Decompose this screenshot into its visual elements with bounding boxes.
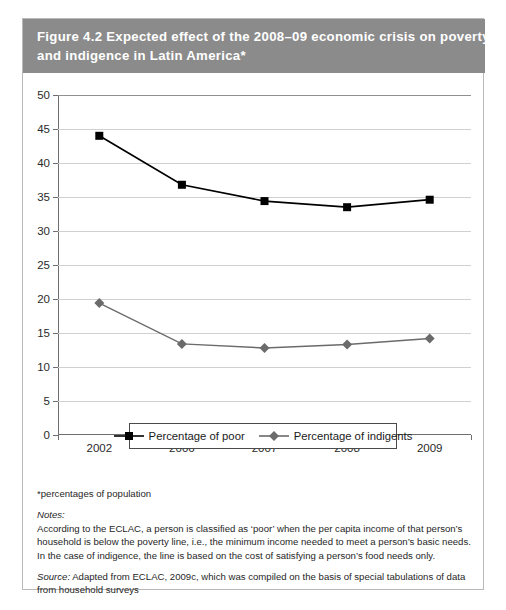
figure-title-line-1: Figure 4.2 Expected effect of the 2008–0… xyxy=(37,28,471,47)
plot-area: 05101520253035404550 2002200620072008200… xyxy=(58,95,471,435)
series-line xyxy=(99,136,429,207)
y-tick-label-20: 20 xyxy=(37,293,50,305)
figure-title-line-2: and indigence in Latin America* xyxy=(37,47,471,66)
figure-notes: *percentages of population Notes: Accord… xyxy=(37,487,471,605)
data-point-2007 xyxy=(260,343,270,353)
note-line-3: In the case of indigence, the line is ba… xyxy=(37,549,471,562)
y-tick-label-15: 15 xyxy=(37,327,50,339)
y-tick-label-5: 5 xyxy=(44,395,50,407)
y-tick-label-35: 35 xyxy=(37,191,50,203)
y-tick-label-0: 0 xyxy=(44,429,50,441)
data-point-2002 xyxy=(95,132,103,140)
note-line-2: household is below the poverty line, i.e… xyxy=(37,535,471,548)
note-line-1: According to the ECLAC, a person is clas… xyxy=(37,522,471,535)
figure-title-text-1: Expected effect of the 2008–09 economic … xyxy=(106,29,490,44)
notes-label: Notes: xyxy=(37,508,471,521)
series-line xyxy=(99,303,429,348)
series-plot xyxy=(58,95,471,435)
chart-canvas: 05101520253035404550 2002200620072008200… xyxy=(23,73,485,473)
figure-header-band: Figure 4.2 Expected effect of the 2008–0… xyxy=(23,19,485,73)
data-point-2007 xyxy=(261,197,269,205)
legend-item: Percentage of poor xyxy=(114,430,245,442)
legend-diamond-marker-icon xyxy=(259,430,289,442)
y-tick-label-45: 45 xyxy=(37,123,50,135)
y-tick-label-50: 50 xyxy=(37,89,50,101)
data-point-2006 xyxy=(178,181,186,189)
source-label: Source: xyxy=(37,571,70,582)
legend-item: Percentage of indigents xyxy=(259,430,413,442)
figure-container: Figure 4.2 Expected effect of the 2008–0… xyxy=(22,18,484,590)
data-point-2009 xyxy=(425,333,435,343)
legend-item-label: Percentage of poor xyxy=(149,430,245,442)
x-tick-label-2002: 2002 xyxy=(87,442,113,454)
figure-number: Figure 4.2 xyxy=(37,29,102,44)
data-point-2008 xyxy=(342,340,352,350)
data-point-2009 xyxy=(426,196,434,204)
series-indigents xyxy=(94,298,434,353)
data-point-2002 xyxy=(94,298,104,308)
x-tick-mark-0 xyxy=(58,435,59,440)
legend-item-label: Percentage of indigents xyxy=(294,430,413,442)
chart-legend: Percentage of poorPercentage of indigent… xyxy=(129,423,397,449)
y-tick-label-40: 40 xyxy=(37,157,50,169)
legend-square-marker-icon xyxy=(114,430,144,442)
note-asterisk: *percentages of population xyxy=(37,487,471,500)
y-tick-label-10: 10 xyxy=(37,361,50,373)
series-poor xyxy=(95,132,433,211)
x-tick-label-2009: 2009 xyxy=(417,442,443,454)
source-text: Adapted from ECLAC, 2009c, which was com… xyxy=(37,571,465,595)
y-tick-label-25: 25 xyxy=(37,259,50,271)
data-point-2006 xyxy=(177,339,187,349)
y-tick-label-30: 30 xyxy=(37,225,50,237)
note-source: Source: Adapted from ECLAC, 2009c, which… xyxy=(37,570,471,597)
x-tick-mark-5 xyxy=(471,435,472,440)
data-point-2008 xyxy=(343,203,351,211)
